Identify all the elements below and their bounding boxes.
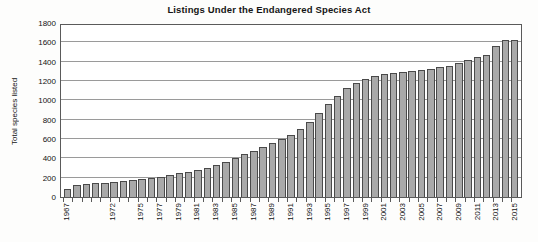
x-label-slot: 2003 <box>399 203 407 241</box>
x-tick <box>194 198 202 202</box>
y-tick-label: 1600 <box>38 39 56 47</box>
x-tick-label: 1977 <box>156 203 164 221</box>
chart-title: Listings Under the Endangered Species Ac… <box>0 4 538 15</box>
x-label-slot: 1993 <box>306 203 314 241</box>
x-tick <box>353 198 361 202</box>
x-tick <box>156 198 164 202</box>
x-label-slot <box>128 203 136 241</box>
x-tick-label: 1997 <box>343 203 351 221</box>
bar <box>483 55 491 197</box>
x-tick <box>212 198 220 202</box>
x-tick-label: 1991 <box>287 203 295 221</box>
bar <box>73 185 81 197</box>
x-label-slot: 1983 <box>212 203 220 241</box>
bar <box>455 63 463 197</box>
x-label-slot <box>409 203 417 241</box>
x-tick <box>446 198 454 202</box>
x-label-slot: 2011 <box>474 203 482 241</box>
x-label-slot <box>278 203 286 241</box>
x-label-slot <box>371 203 379 241</box>
chart-container: Listings Under the Endangered Species Ac… <box>0 0 538 242</box>
x-tick-label: 1972 <box>109 203 117 221</box>
x-tick <box>184 198 192 202</box>
x-tick-label: 2007 <box>436 203 444 221</box>
bar <box>278 139 286 197</box>
x-label-slot: 2005 <box>418 203 426 241</box>
bar <box>269 143 277 197</box>
y-tick-label: 400 <box>43 155 56 163</box>
y-tick-label: 1800 <box>38 20 56 28</box>
x-tick <box>465 198 473 202</box>
y-axis-tick-labels: 020040060080010001200140016001800 <box>22 24 56 198</box>
x-axis-tick-labels: 1967197219751977197919811983198519871989… <box>60 203 522 241</box>
x-tick <box>119 198 127 202</box>
x-tick <box>287 198 295 202</box>
x-tick <box>82 198 90 202</box>
bar <box>204 168 212 197</box>
x-tick-label: 1987 <box>250 203 258 221</box>
bar <box>492 46 500 197</box>
x-tick <box>240 198 248 202</box>
x-label-slot <box>353 203 361 241</box>
x-tick-label: 2015 <box>511 203 519 221</box>
bar <box>436 67 444 197</box>
bar <box>390 73 398 197</box>
y-tick-label: 1200 <box>38 78 56 86</box>
x-tick <box>315 198 323 202</box>
x-label-slot <box>465 203 473 241</box>
bar <box>250 151 258 197</box>
x-tick <box>325 198 333 202</box>
x-tick-label: 1993 <box>306 203 314 221</box>
x-tick <box>268 198 276 202</box>
x-tick-label: 1979 <box>175 203 183 221</box>
bar <box>334 96 342 198</box>
bar <box>325 104 333 197</box>
bar <box>101 183 109 198</box>
bar <box>427 69 435 197</box>
x-tick <box>166 198 174 202</box>
x-tick <box>110 198 118 202</box>
x-tick-label: 1975 <box>137 203 145 221</box>
x-label-slot: 2009 <box>455 203 463 241</box>
x-label-slot <box>184 203 192 241</box>
x-label-slot: 1981 <box>194 203 202 241</box>
bar <box>343 88 351 197</box>
x-tick-label: 2011 <box>474 203 482 220</box>
x-label-slot: 2007 <box>437 203 445 241</box>
x-label-slot <box>91 203 99 241</box>
x-axis-ticks <box>60 198 522 202</box>
x-label-slot <box>259 203 267 241</box>
x-tick <box>128 198 136 202</box>
x-label-slot <box>446 203 454 241</box>
x-tick <box>306 198 314 202</box>
x-tick-label: 2001 <box>380 203 388 221</box>
x-tick <box>278 198 286 202</box>
bar <box>418 70 426 197</box>
x-label-slot: 1989 <box>268 203 276 241</box>
x-label-slot: 1987 <box>250 203 258 241</box>
bar <box>138 179 146 197</box>
y-tick-label: 0 <box>52 194 56 202</box>
x-label-slot <box>82 203 90 241</box>
x-tick <box>511 198 519 202</box>
x-tick <box>175 198 183 202</box>
bar <box>474 57 482 197</box>
x-tick-label: 2005 <box>418 203 426 221</box>
bar <box>306 122 314 197</box>
bar <box>64 189 72 197</box>
x-label-slot: 1985 <box>231 203 239 241</box>
x-label-slot: 1977 <box>156 203 164 241</box>
x-tick <box>502 198 510 202</box>
bar <box>362 79 370 197</box>
x-tick-label: 2013 <box>492 203 500 221</box>
x-tick-label: 2003 <box>399 203 407 221</box>
y-tick-label: 1000 <box>38 97 56 105</box>
x-label-slot: 2013 <box>493 203 501 241</box>
bar <box>232 158 240 197</box>
x-label-slot: 1975 <box>138 203 146 241</box>
x-label-slot <box>390 203 398 241</box>
x-label-slot <box>147 203 155 241</box>
x-tick <box>138 198 146 202</box>
bar <box>408 71 416 197</box>
bar <box>92 183 100 197</box>
